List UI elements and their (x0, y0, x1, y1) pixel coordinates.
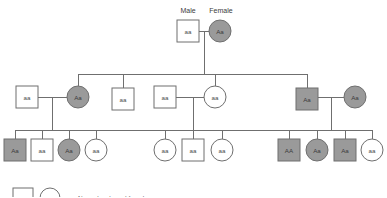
individual-I-2[interactable]: Aa (209, 20, 231, 42)
individual-III-6[interactable]: aa (182, 139, 204, 161)
legend-description: Normal male and female (78, 195, 148, 198)
individual-III-11[interactable]: aa (361, 139, 383, 161)
individual-III-1[interactable]: Aa (4, 139, 26, 161)
individual-II-6[interactable]: Aa (296, 88, 318, 110)
individual-II-3[interactable]: aa (112, 88, 134, 110)
genotype-label: aa (93, 147, 100, 154)
individual-II-4[interactable]: aa (154, 86, 176, 108)
legend-male-genotype: aa (20, 195, 27, 197)
genotype-label: aa (39, 147, 46, 154)
genotype-label: Aa (351, 94, 359, 101)
genotype-label: Aa (303, 96, 311, 103)
individual-II-1[interactable]: aa (16, 86, 38, 108)
genotype-label: aa (369, 147, 376, 154)
genotype-label: Aa (65, 147, 73, 154)
individual-III-9[interactable]: Aa (306, 139, 328, 161)
genotype-label: aa (185, 28, 192, 35)
individual-I-1[interactable]: aa (177, 20, 199, 42)
genotype-label: aa (219, 147, 226, 154)
genotype-label: aa (212, 94, 219, 101)
genotype-label: aa (162, 147, 169, 154)
genotype-label: AA (285, 147, 294, 154)
genotype-label: aa (162, 94, 169, 101)
legend-item-normal: aa aa Normal male and female (13, 188, 148, 197)
individual-III-3[interactable]: Aa (58, 139, 80, 161)
genotype-label: Aa (313, 147, 321, 154)
genotype-label: Aa (341, 147, 349, 154)
individual-III-7[interactable]: aa (211, 139, 233, 161)
individual-II-2[interactable]: Aa (67, 86, 89, 108)
genotype-label: Aa (216, 28, 224, 35)
individual-III-4[interactable]: aa (85, 139, 107, 161)
genotype-label: Aa (74, 94, 82, 101)
legend-group: aa aa Normal male and female (13, 188, 148, 197)
genotype-label: aa (24, 94, 31, 101)
genotype-label: aa (120, 96, 127, 103)
individual-III-10[interactable]: Aa (334, 139, 356, 161)
generation-1-group: aa Male Aa Female (78, 7, 307, 88)
caption-female: Female (209, 7, 232, 14)
legend-female-genotype: aa (47, 195, 54, 197)
individual-II-5[interactable]: aa (204, 86, 226, 108)
individual-II-7[interactable]: Aa (344, 86, 366, 108)
pedigree-diagram: aa Male Aa Female aa (0, 0, 387, 197)
genotype-label: aa (190, 147, 197, 154)
genotype-label: Aa (11, 147, 19, 154)
individual-III-5[interactable]: aa (154, 139, 176, 161)
generation-3-group: Aa aa Aa aa aa (4, 139, 383, 161)
individual-III-8[interactable]: AA (278, 139, 300, 161)
individual-III-2[interactable]: aa (31, 139, 53, 161)
caption-male: Male (180, 7, 195, 14)
pedigree-chart-figure: aa Male Aa Female aa (0, 0, 387, 197)
